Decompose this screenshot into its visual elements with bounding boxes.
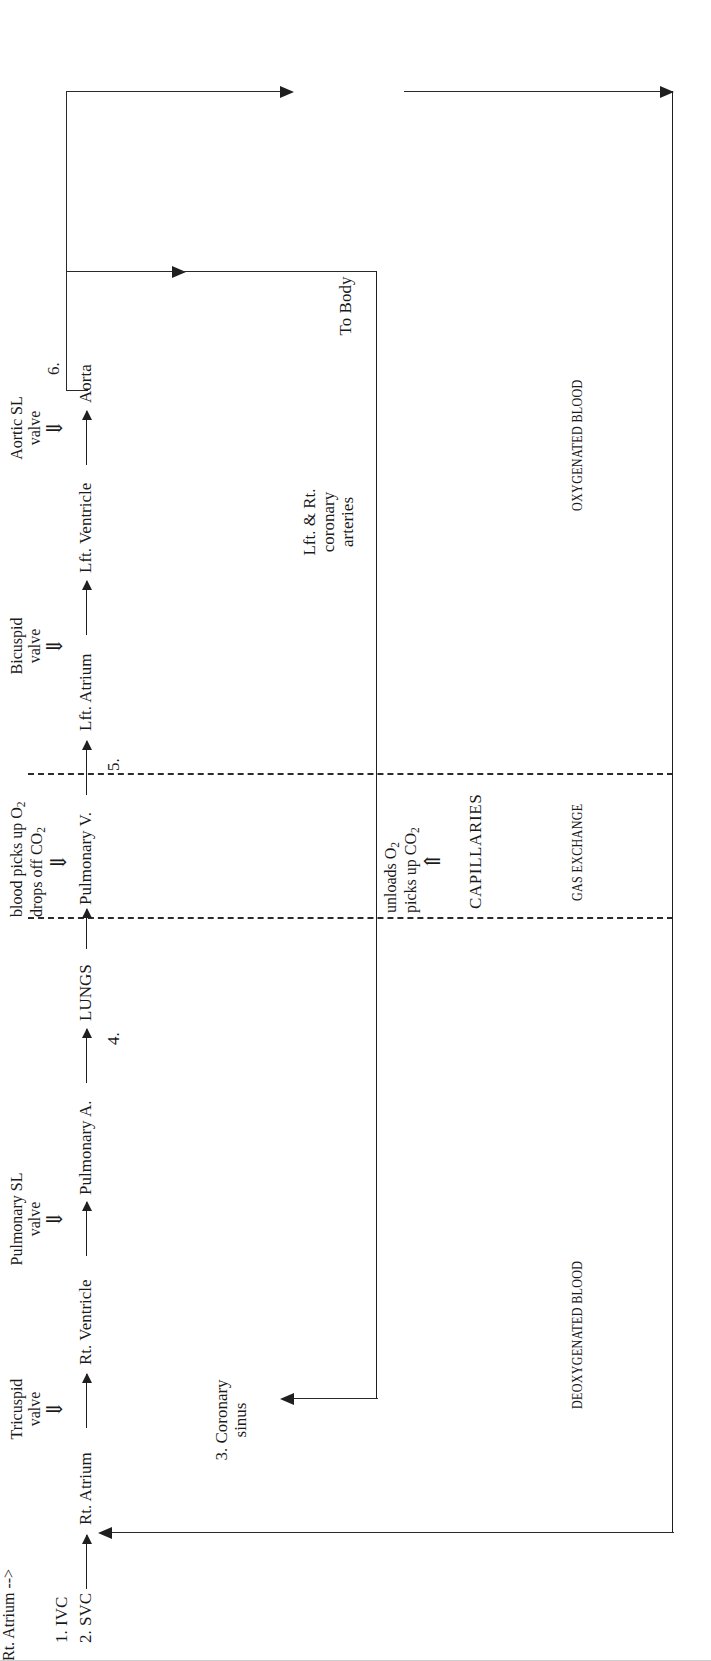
section-deoxygenated-blood: DEOXYGENATED BLOOD <box>568 1261 585 1409</box>
node-lungs: LUNGS <box>76 964 95 1021</box>
lung-note-line2: drops off CO2 <box>28 767 48 917</box>
valve-tricuspid: Tricuspid valve ⇓ <box>8 1349 66 1469</box>
coronary-sinus-feed-arrowhead <box>280 1393 294 1405</box>
node-lft-ventricle: Lft. Ventricle <box>76 483 95 573</box>
coronary-branch-arrowhead <box>172 266 186 278</box>
coronary-arteries-line3: arteries <box>338 447 357 597</box>
node-aorta: Aorta <box>76 364 95 403</box>
coronary-arteries-line2: coronary <box>319 447 338 597</box>
node-rt-atrium-label: Rt. Atrium <box>76 1452 95 1525</box>
valve-bicuspid-name: Bicuspid <box>8 586 26 706</box>
coronary-sinus-feed-line <box>180 271 376 272</box>
to-body-branch-line <box>66 91 284 92</box>
valve-pulmonary-sl-name: Pulmonary SL <box>8 1149 26 1289</box>
coronary-arteries-line1: Lft. & Rt. <box>300 447 319 597</box>
arrow-lft-ventricle-to-aorta <box>86 411 87 465</box>
coronary-sinus-feed-up <box>286 1398 378 1399</box>
node-lft-atrium: Lft. Atrium <box>76 654 95 731</box>
valve-pulmonary-sl: Pulmonary SL valve ⇓ <box>8 1149 66 1289</box>
valve-aortic-sl-arrow-icon: ⇓ <box>44 363 66 493</box>
inflow-svc: 2. SVC <box>76 1593 95 1643</box>
node-pulmonary-a-label: Pulmonary A. <box>76 1101 95 1195</box>
inflow-ivc-label: 1. IVC <box>52 1597 71 1643</box>
coronary-sinus-feed-run <box>376 271 377 1399</box>
lung-note-arrow-icon: ⇓ <box>48 807 70 917</box>
valve-aortic-sl-name: Aortic SL <box>8 363 26 493</box>
node-lungs-label: LUNGS <box>76 964 95 1021</box>
valve-tricuspid-name: Tricuspid <box>8 1349 26 1469</box>
arrow-svc-to-rt-atrium <box>86 1535 87 1589</box>
arrow-rt-atrium-to-rt-ventricle <box>86 1374 87 1428</box>
capillary-note-line1: unloads O2 <box>382 773 402 913</box>
to-body-arrowhead <box>280 86 294 98</box>
node-lft-atrium-label: Lft. Atrium <box>76 654 95 731</box>
capillary-gas-exchange-note: unloads O2 picks up CO2 ⇑ <box>382 773 444 913</box>
capillary-return-arrowhead <box>98 1527 112 1539</box>
arrow-rt-ventricle-to-pulmonary-a <box>86 1202 87 1256</box>
gas-exchange-divider-left <box>28 917 673 919</box>
capillary-return-up-to-atrium <box>104 1532 674 1533</box>
capillary-note-line2: picks up CO2 <box>402 773 422 913</box>
node-rt-atrium: Rt. Atrium <box>76 1452 95 1525</box>
lung-gas-exchange-note: blood picks up O2 drops off CO2 ⇓ <box>8 767 70 917</box>
capillary-note-arrow-icon: ⇑ <box>422 809 444 913</box>
lung-note-line1: blood picks up O2 <box>8 767 28 917</box>
arrow-lft-atrium-to-lft-ventricle <box>86 581 87 635</box>
arrow-pulmonary-a-to-lungs <box>86 1029 87 1083</box>
node-pulmonary-v: Pulmonary V. <box>76 812 95 905</box>
aorta-branch-trunk <box>66 91 67 391</box>
node-lft-ventricle-label: Lft. Ventricle <box>76 483 95 573</box>
section-gas-exchange: GAS EXCHANGE <box>568 804 585 901</box>
to-capillaries-line <box>404 91 670 92</box>
step-number-5: 5. <box>104 758 123 771</box>
node-pulmonary-a: Pulmonary A. <box>76 1101 95 1195</box>
coronary-branch-line <box>66 271 176 272</box>
gas-exchange-divider-right <box>28 773 673 775</box>
section-oxygenated-blood: OXYGENATED BLOOD <box>568 379 585 511</box>
arrow-pulmonary-v-to-lft-atrium <box>86 741 87 795</box>
coronary-sinus-label: 3. Coronary sinus <box>212 1345 250 1495</box>
valve-pulmonary-sl-arrow-icon: ⇓ <box>44 1149 66 1289</box>
capillaries-label: CAPILLARIES <box>466 794 485 909</box>
diagram-canvas: 1. IVC 2. SVC Rt. Atrium --> Rt. Atrium … <box>0 0 711 1661</box>
capillary-return-run <box>672 91 673 1533</box>
coronary-sinus-line1: 3. Coronary <box>212 1345 231 1495</box>
step-number-6: 6. <box>44 362 63 375</box>
step-number-4: 4. <box>104 1032 123 1045</box>
to-body-label: To Body <box>336 251 355 361</box>
valve-tricuspid-arrow-icon: ⇓ <box>44 1349 66 1469</box>
coronary-arteries-label: Lft. & Rt. coronary arteries <box>300 447 357 597</box>
arrow-lungs-to-pulmonary-v <box>86 909 87 949</box>
node-pulmonary-v-label: Pulmonary V. <box>76 812 95 905</box>
valve-bicuspid: Bicuspid valve ⇓ <box>8 586 66 706</box>
node-aorta-label: Aorta <box>76 364 95 403</box>
inflow-ivc: 1. IVC <box>52 1597 71 1643</box>
aorta-branch-down-left <box>66 390 88 391</box>
valve-bicuspid-arrow-icon: ⇓ <box>44 586 66 706</box>
node-rt-ventricle-label: Rt. Ventricle <box>76 1279 95 1365</box>
node-rt-ventricle: Rt. Ventricle <box>76 1279 95 1365</box>
valve-aortic-sl: Aortic SL valve ⇓ <box>8 363 66 493</box>
inflow-svc-label: 2. SVC <box>76 1593 95 1643</box>
coronary-sinus-line2: sinus <box>231 1345 250 1495</box>
